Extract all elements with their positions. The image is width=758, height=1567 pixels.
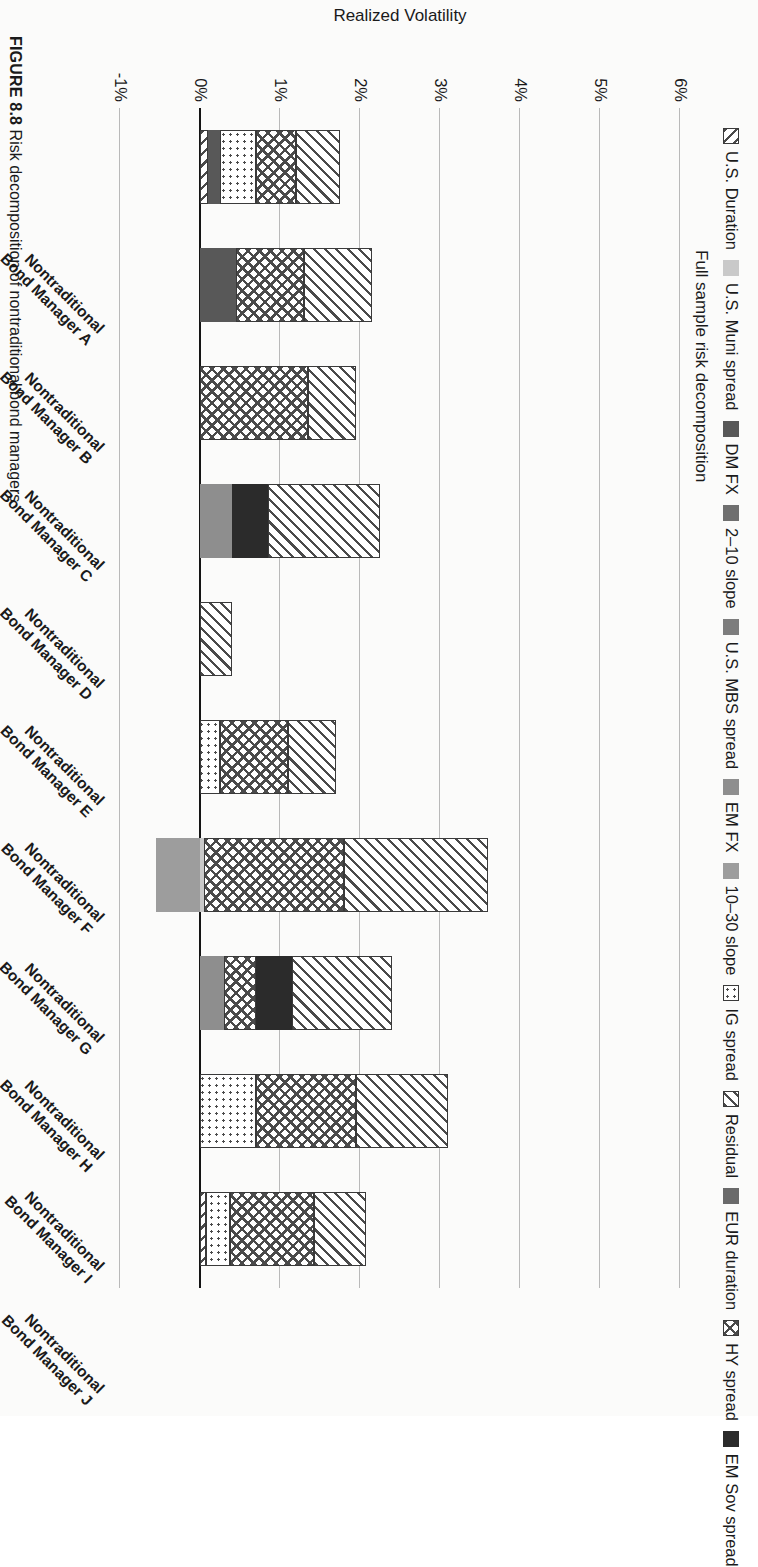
swatch-solid-black-icon [724, 1431, 740, 1447]
swatch-solid-midgray-icon [724, 779, 740, 795]
bar-stack [120, 484, 680, 557]
swatch-diag-up-icon [724, 128, 740, 144]
x-axis-category-label: NontraditionalBond Manager I [1, 1180, 108, 1287]
bar-stack [120, 956, 680, 1029]
legend-item: DM FX [723, 421, 740, 495]
bar-segment [156, 838, 200, 911]
plot-area: Realized Volatility -1%0%1%2%3%4%5%6% No… [120, 108, 680, 1288]
swatch-dotted-icon [724, 985, 740, 1001]
bar-segment [356, 1074, 448, 1147]
x-axis-category-label: NontraditionalBond Manager E [0, 710, 108, 821]
legend-item: IG spread [723, 985, 740, 1080]
bar-segment [200, 956, 224, 1029]
y-axis-tick-label: 4% [511, 32, 530, 102]
legend-item-label: U.S. Duration [723, 151, 740, 250]
bar-stack [120, 720, 680, 793]
y-axis-tick-label: 2% [351, 32, 370, 102]
y-axis-label: Realized Volatility [333, 6, 466, 26]
swatch-solid-gray-icon [724, 505, 740, 521]
bar-segment [208, 130, 220, 203]
bar-segment [220, 720, 288, 793]
legend-item: EUR duration [723, 1188, 740, 1310]
bar-segment [200, 248, 236, 321]
bar-segment [200, 366, 308, 439]
bar-stack [120, 1192, 680, 1265]
legend-item-label: 2–10 slope [723, 528, 740, 609]
bar-segment [292, 956, 392, 1029]
chart-title: Full sample risk decomposition [691, 250, 711, 482]
bar-segment [344, 838, 488, 911]
bar-segment [200, 1074, 256, 1147]
legend-item-label: HY spread [723, 1343, 740, 1421]
x-axis-category-label: NontraditionalBond Manager D [0, 592, 108, 704]
bar-segment [200, 720, 220, 793]
bar-segment [314, 1192, 366, 1265]
y-axis-tick-label: 0% [191, 32, 210, 102]
legend-item: EM Sov spread [723, 1431, 740, 1567]
legend-item: Residual [723, 1091, 740, 1178]
legend-item-label: IG spread [723, 1008, 740, 1080]
bar-stack [120, 248, 680, 321]
bar-segment [230, 1192, 314, 1265]
bar-segment [232, 484, 268, 557]
bar-segment [224, 956, 256, 1029]
figure-caption-label: FIGURE 8.8 [7, 36, 24, 125]
bar-segment [220, 130, 256, 203]
x-axis-category-label: NontraditionalBond Manager J [0, 1300, 108, 1410]
legend-item: 2–10 slope [723, 505, 740, 609]
y-axis-tick-label: 3% [431, 32, 450, 102]
x-axis-category-label: NontraditionalBond Manager G [0, 947, 108, 1059]
swatch-solid-lightgray-icon [724, 260, 740, 276]
figure-caption: FIGURE 8.8 Risk decomposition of nontrad… [6, 36, 24, 502]
bar-segment [304, 248, 372, 321]
legend-item-label: EM FX [723, 802, 740, 852]
legend-item-label: Residual [723, 1114, 740, 1178]
bar-segment [204, 838, 344, 911]
chart-legend: U.S. DurationU.S. Muni spreadDM FX2–10 s… [719, 128, 744, 1288]
swatch-solid-gray3-icon [724, 863, 740, 879]
legend-item-label: U.S. MBS spread [723, 642, 740, 769]
swatch-crosshatch-icon [724, 1320, 740, 1336]
legend-item-label: DM FX [723, 444, 740, 495]
legend-item-label: 10–30 slope [723, 886, 740, 976]
bar-segment [236, 248, 304, 321]
y-axis-tick-label: 5% [591, 32, 610, 102]
y-axis-tick-label: 1% [271, 32, 290, 102]
figure-caption-text: Risk decomposition of nontraditional bon… [7, 130, 24, 503]
bar-segment [256, 956, 292, 1029]
swatch-solid-darkgray-icon [724, 421, 740, 437]
bar-segment [200, 602, 232, 675]
x-axis-category-label: NontraditionalBond Manager H [0, 1064, 108, 1176]
legend-item-label: EUR duration [723, 1211, 740, 1310]
legend-item: U.S. Muni spread [723, 260, 740, 410]
bar-segment [256, 1074, 356, 1147]
legend-item: EM FX [723, 779, 740, 852]
bar-segment [200, 130, 208, 203]
bar-segment [200, 484, 232, 557]
swatch-diag-down-icon [724, 1091, 740, 1107]
bar-segment [256, 130, 296, 203]
bar-stack [120, 602, 680, 675]
swatch-solid-gray2-icon [724, 619, 740, 635]
x-axis-category-label: NontraditionalBond Manager F [0, 828, 108, 938]
bar-segment [268, 484, 380, 557]
y-axis-tick-label: 6% [671, 32, 690, 102]
bar-segment [308, 366, 356, 439]
legend-item-label: U.S. Muni spread [723, 283, 740, 410]
bar-stack [120, 130, 680, 203]
bar-stack [120, 366, 680, 439]
legend-item: U.S. MBS spread [723, 619, 740, 769]
legend-item: U.S. Duration [723, 128, 740, 250]
bar-segment [288, 720, 336, 793]
bar-stack [120, 838, 680, 911]
bar-segment [206, 1192, 230, 1265]
legend-item: HY spread [723, 1320, 740, 1421]
bar-stack [120, 1074, 680, 1147]
swatch-solid-gray4-icon [724, 1188, 740, 1204]
legend-item: 10–30 slope [723, 863, 740, 976]
bar-segment [296, 130, 340, 203]
legend-item-label: EM Sov spread [723, 1454, 740, 1567]
y-axis-tick-label: -1% [111, 32, 130, 102]
